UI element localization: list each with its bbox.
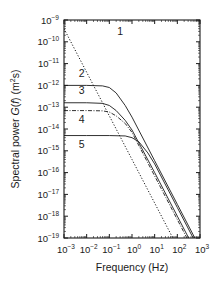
plot-frame xyxy=(64,20,200,238)
y-tick-label: 10−19 xyxy=(37,232,59,244)
x-tick-label: 102 xyxy=(172,243,187,255)
x-axis-ticks xyxy=(64,20,200,238)
y-tick-label: 10−18 xyxy=(37,210,59,222)
y-tick-label: 10−15 xyxy=(37,144,59,156)
y-tick-label: 10−17 xyxy=(37,188,59,200)
x-tick-label: 10−2 xyxy=(80,243,98,255)
x-tick-label: 103 xyxy=(195,243,210,255)
y-axis-tick-labels: 10−910−1010−1110−1210−1310−1410−1510−161… xyxy=(37,14,59,244)
series-4-line xyxy=(64,111,200,264)
x-axis-tick-labels: 10−310−210−1100101102103 xyxy=(57,243,209,255)
curve-label-2: 2 xyxy=(79,67,85,79)
spectral-power-chart: 10−910−1010−1110−1210−1310−1410−1510−161… xyxy=(0,0,220,287)
plot-border xyxy=(64,20,200,238)
curve-label-5: 5 xyxy=(79,138,85,150)
y-tick-label: 10−13 xyxy=(37,101,59,113)
curve-label-4: 4 xyxy=(79,113,85,125)
y-tick-label: 10−11 xyxy=(38,57,60,69)
y-tick-label: 10−14 xyxy=(37,123,59,135)
x-axis-title: Frequency (Hz) xyxy=(96,261,168,273)
y-axis-ticks xyxy=(64,20,200,238)
y-tick-label: 10−12 xyxy=(37,79,59,91)
y-tick-label: 10−16 xyxy=(37,166,59,178)
curve-labels: 12345 xyxy=(79,25,124,150)
y-tick-label: 10−9 xyxy=(41,14,59,26)
y-tick-label: 10−10 xyxy=(37,35,59,47)
y-axis-title: Spectral power G(f) (m2s) xyxy=(9,70,21,189)
x-tick-label: 10−3 xyxy=(57,243,75,255)
x-tick-label: 10−1 xyxy=(102,243,120,255)
curve-label-1: 1 xyxy=(117,25,123,37)
series-5-line xyxy=(64,136,200,252)
x-tick-label: 100 xyxy=(127,243,142,255)
curve-label-3: 3 xyxy=(79,84,85,96)
x-tick-label: 101 xyxy=(150,243,165,255)
